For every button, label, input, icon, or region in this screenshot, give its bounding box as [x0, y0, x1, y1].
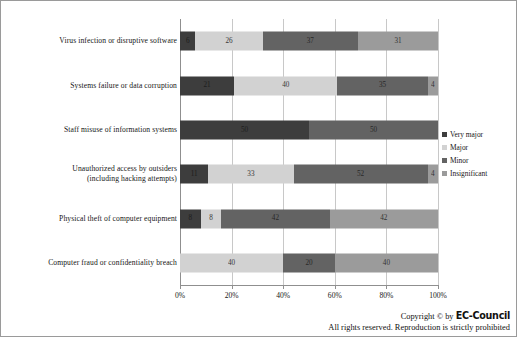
bar-segment: 26: [195, 32, 262, 51]
x-tick-label: 80%: [379, 291, 393, 300]
x-tick-label: 100%: [429, 291, 447, 300]
x-tick: [180, 285, 181, 289]
bar-value-label: 31: [394, 38, 401, 45]
legend-swatch-icon: [442, 158, 447, 163]
chart-container: Virus infection or disruptive softwareSy…: [0, 0, 517, 337]
bar-row: 1133524: [180, 165, 438, 184]
bar-row: 5050: [180, 120, 438, 139]
bar-segment: 40: [234, 76, 337, 95]
copyright-prefix: Copyright © by: [401, 312, 456, 321]
legend-swatch-icon: [442, 145, 447, 150]
category-label: Systems failure or data corruption: [5, 81, 177, 91]
x-tick: [438, 285, 439, 289]
copyright-text: Copyright © by EC-Council: [328, 310, 510, 322]
bar-segment: 33: [208, 165, 293, 184]
category-label: Virus infection or disruptive software: [5, 36, 177, 46]
bar-segment: 42: [330, 209, 438, 228]
category-axis: Virus infection or disruptive softwareSy…: [5, 19, 177, 285]
category-label: Physical theft of computer equipment: [5, 214, 177, 224]
bar-value-label: 50: [241, 126, 248, 133]
bar-segment: 20: [283, 253, 335, 272]
bar-segment: 52: [294, 165, 428, 184]
bar-segment: 8: [201, 209, 222, 228]
bar-row: 6263731: [180, 32, 438, 51]
x-tick-label: 40%: [276, 291, 290, 300]
legend-swatch-icon: [442, 132, 447, 137]
bar-value-label: 40: [282, 82, 289, 89]
bar-segment: 50: [309, 120, 438, 139]
bar-value-label: 33: [247, 171, 254, 178]
x-axis: 0%20%40%60%80%100%: [180, 285, 438, 286]
gridline: [180, 19, 181, 285]
legend-swatch-icon: [442, 171, 447, 176]
bar-row: 2140354: [180, 76, 438, 95]
bar-segment: 37: [263, 32, 358, 51]
x-tick: [335, 285, 336, 289]
x-tick-label: 20%: [225, 291, 239, 300]
legend-label: Minor: [450, 156, 468, 165]
gridline: [232, 19, 233, 285]
bar-value-label: 52: [357, 171, 364, 178]
gridline: [438, 19, 439, 285]
chart-legend: Very majorMajorMinorInsignificant: [442, 128, 516, 180]
gridline: [335, 19, 336, 285]
bar-segment: 40: [335, 253, 438, 272]
legend-item[interactable]: Minor: [442, 154, 516, 167]
bar-value-label: 35: [379, 82, 386, 89]
bar-value-label: 26: [225, 38, 232, 45]
bar-value-label: 42: [380, 215, 387, 222]
bar-value-label: 40: [228, 259, 235, 266]
gridline: [386, 19, 387, 285]
bar-value-label: 8: [209, 215, 213, 222]
bar-segment: 42: [221, 209, 329, 228]
bar-value-label: 6: [186, 38, 190, 45]
bar-segment: 4: [428, 165, 438, 184]
x-tick: [386, 285, 387, 289]
category-label: Unauthorized access by outsiders (includ…: [5, 165, 177, 184]
bar-value-label: 20: [305, 259, 312, 266]
x-tick-label: 60%: [328, 291, 342, 300]
bar-value-label: 40: [383, 259, 390, 266]
rights-text: All rights reserved. Reproduction is str…: [328, 322, 510, 333]
bar-segment: 8: [180, 209, 201, 228]
bar-row: 884242: [180, 209, 438, 228]
plot-area: 6263731214035450501133524884242402040: [180, 19, 438, 285]
bar-value-label: 21: [203, 82, 210, 89]
bar-segment: 6: [180, 32, 195, 51]
bar-value-label: 50: [370, 126, 377, 133]
legend-item[interactable]: Insignificant: [442, 167, 516, 180]
bar-segment: 35: [337, 76, 427, 95]
bar-value-label: 42: [272, 215, 279, 222]
bar-segment: 11: [180, 165, 208, 184]
bar-segment: 50: [180, 120, 309, 139]
legend-item[interactable]: Very major: [442, 128, 516, 141]
gridline: [283, 19, 284, 285]
bar-value-label: 11: [191, 171, 198, 178]
x-tick: [232, 285, 233, 289]
x-tick: [283, 285, 284, 289]
bar-value-label: 8: [189, 215, 193, 222]
category-label: Staff misuse of information systems: [5, 125, 177, 135]
bar-segment: 31: [358, 32, 438, 51]
bar-value-label: 37: [307, 38, 314, 45]
bar-row: 402040: [180, 253, 438, 272]
legend-label: Major: [450, 143, 468, 152]
bar-value-label: 4: [431, 82, 435, 89]
legend-item[interactable]: Major: [442, 141, 516, 154]
footer: Copyright © by EC-Council All rights res…: [328, 310, 510, 333]
legend-label: Very major: [450, 130, 483, 139]
brand-name: EC-Council: [456, 310, 510, 321]
bar-segment: 21: [180, 76, 234, 95]
x-tick-label: 0%: [175, 291, 185, 300]
bar-value-label: 4: [431, 171, 435, 178]
bar-segment: 4: [428, 76, 438, 95]
bar-segment: 40: [180, 253, 283, 272]
legend-label: Insignificant: [450, 169, 487, 178]
category-label: Computer fraud or confidentiality breach: [5, 258, 177, 268]
